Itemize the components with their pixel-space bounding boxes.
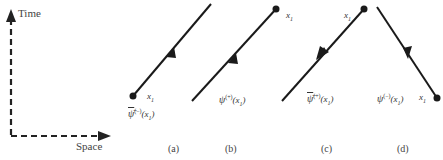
- panel-a-caption: (a): [168, 144, 179, 154]
- panel-c-point-label: x1: [344, 11, 351, 22]
- panel-d-point-label: x1: [419, 93, 426, 104]
- panel-a-field-label: ψ̄(−)(x1): [128, 108, 155, 121]
- panel-c-vertex-dot: [361, 6, 368, 13]
- panel-a-line: [130, 4, 212, 100]
- time-axis-arrow-icon: [6, 9, 16, 22]
- panel-a-point-label: x1: [147, 92, 154, 103]
- panel-a-field-superscript: (−): [134, 108, 141, 114]
- feynman-propagator-diagram: Time Space x1 ψ̄(−)(x1) (a) x1 ψ(+)(x1) …: [0, 0, 443, 160]
- panel-c-field-superscript: (+): [313, 93, 320, 99]
- panel-b-caption: (b): [225, 144, 237, 154]
- panel-d-field-superscript: (−): [383, 93, 390, 99]
- panel-d-caption: (d): [397, 144, 409, 154]
- panel-b-vertex-dot: [273, 6, 280, 13]
- panel-a-arrow-icon: [166, 47, 176, 58]
- diagram-canvas: [0, 0, 443, 160]
- panel-d-field-label: ψ(−)(x1): [377, 93, 404, 106]
- panel-b-point-label: x1: [286, 11, 293, 22]
- panel-d-vertex-dot: [434, 95, 441, 102]
- panel-b-line: [192, 6, 280, 102]
- panel-c-caption: (c): [321, 144, 332, 154]
- panel-b-field-superscript: (+): [225, 94, 232, 100]
- panel-c-line: [282, 6, 368, 102]
- panel-b-field-label: ψ(+)(x1): [219, 94, 246, 107]
- time-axis-label: Time: [18, 8, 41, 19]
- panel-c-field-label: ψ̄(+)(x1): [307, 93, 334, 106]
- space-axis-label: Space: [76, 141, 102, 152]
- panel-a-vertex-dot: [130, 93, 137, 100]
- panel-d-line: [377, 7, 441, 102]
- time-axis: [6, 9, 16, 135]
